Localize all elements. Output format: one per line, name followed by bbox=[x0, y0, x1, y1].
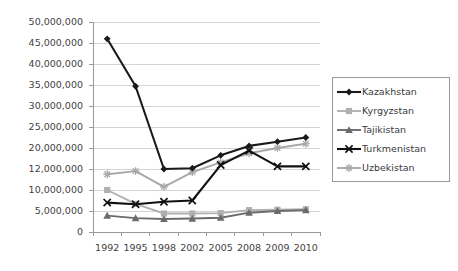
legend-item-uzbekistan[interactable]: Uzbekistan bbox=[336, 158, 446, 177]
x-tick-label: 2008 bbox=[237, 242, 261, 253]
line-chart: 50,000,00045,000,00040,000,00035,000,000… bbox=[0, 0, 458, 271]
legend-marker-triangle-icon bbox=[336, 123, 362, 137]
legend-label: Kyrgyzstan bbox=[362, 105, 414, 116]
x-tick-label: 1992 bbox=[95, 242, 119, 253]
legend-item-kyrgyzstan[interactable]: Kyrgyzstan bbox=[336, 101, 446, 120]
legend-label: Tajikistan bbox=[362, 124, 406, 135]
legend-marker-plus-icon bbox=[336, 161, 362, 175]
legend-marker-square-icon bbox=[336, 104, 362, 118]
data-point-square bbox=[346, 107, 352, 113]
legend-item-kazakhstan[interactable]: Kazakhstan bbox=[336, 82, 446, 101]
legend-label: Uzbekistan bbox=[362, 162, 414, 173]
x-tick-label: 1998 bbox=[152, 242, 176, 253]
x-tick-label: 2010 bbox=[294, 242, 318, 253]
legend-label: Kazakhstan bbox=[362, 86, 417, 97]
legend-marker-cross-icon bbox=[336, 142, 362, 156]
legend-marker-diamond-icon bbox=[336, 85, 362, 99]
x-tick-label: 1995 bbox=[123, 242, 147, 253]
x-tick-label: 2005 bbox=[209, 242, 233, 253]
x-tick-label: 2002 bbox=[180, 242, 204, 253]
chart-legend: KazakhstanKyrgyzstanTajikistanTurkmenist… bbox=[332, 77, 450, 182]
x-tick-label: 2009 bbox=[265, 242, 289, 253]
data-point-diamond bbox=[346, 88, 353, 95]
legend-label: Turkmenistan bbox=[362, 143, 426, 154]
legend-item-tajikistan[interactable]: Tajikistan bbox=[336, 120, 446, 139]
legend-item-turkmenistan[interactable]: Turkmenistan bbox=[336, 139, 446, 158]
data-point-plus bbox=[345, 164, 353, 172]
